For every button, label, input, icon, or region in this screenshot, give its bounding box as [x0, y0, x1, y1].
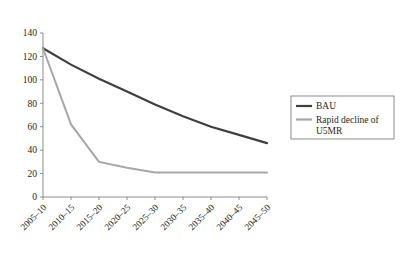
y-axis-tick-labels: 020406080100120140 — [23, 28, 38, 202]
line-chart: 020406080100120140 2005–102010–152015–20… — [0, 0, 401, 257]
y-tick-label: 20 — [28, 169, 38, 179]
chart-container: 020406080100120140 2005–102010–152015–20… — [0, 0, 401, 257]
chart-legend: BAURapid decline ofU5MR — [291, 96, 394, 139]
x-tick-label: 2010–15 — [47, 202, 77, 232]
series-line-bau — [43, 48, 267, 143]
x-tick-label: 2030–35 — [159, 202, 189, 232]
x-tick-label: 2045–50 — [243, 202, 273, 232]
y-tick-label: 140 — [23, 28, 38, 38]
x-tick-label: 2020–25 — [103, 202, 133, 232]
y-tick-label: 40 — [28, 145, 38, 155]
legend-label-1: U5MR — [316, 126, 343, 136]
y-tick-label: 0 — [32, 192, 37, 202]
x-tick-label: 2040–45 — [215, 202, 245, 232]
x-axis-tick-labels: 2005–102010–152015–202020–252025–302030–… — [19, 202, 273, 232]
x-tick-label: 2005–10 — [19, 202, 49, 232]
x-tick-label: 2035–40 — [187, 202, 217, 232]
x-tick-label: 2025–30 — [131, 202, 161, 232]
y-tick-label: 80 — [28, 99, 38, 109]
y-tick-label: 120 — [23, 52, 38, 62]
chart-series-group — [43, 48, 267, 172]
legend-label-0: BAU — [316, 101, 336, 111]
y-tick-label: 100 — [23, 75, 38, 85]
x-tick-label: 2015–20 — [75, 202, 105, 232]
legend-label-1: Rapid decline of — [316, 115, 380, 125]
y-tick-label: 60 — [28, 122, 38, 132]
